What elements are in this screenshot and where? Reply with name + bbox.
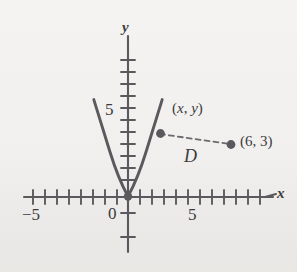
point-on-curve-label-close: ) [198,100,203,116]
x-axis [24,190,276,204]
distance-segment [160,134,230,144]
y-tick-label-5: 5 [105,101,114,118]
origin-label: 0 [108,205,117,222]
point-vertex-origin [124,192,132,200]
point-on-curve [156,129,165,138]
fixed-point-label: (6, 3) [240,134,273,149]
point-on-curve-label-x: x [177,100,184,116]
point-on-curve-label: (x, y) [172,101,203,116]
point-fixed-6-3 [227,140,236,149]
y-axis-label: y [122,20,129,35]
y-axis [121,36,135,252]
x-tick-label-5: 5 [188,206,197,223]
graph-figure: y x 5 0 5 −5 (x, y) (6, 3) D [0,0,297,272]
x-axis-label: x [277,186,285,201]
x-tick-label-minus5: −5 [22,206,40,223]
distance-label: D [184,147,197,165]
point-on-curve-label-y: y [191,100,198,116]
